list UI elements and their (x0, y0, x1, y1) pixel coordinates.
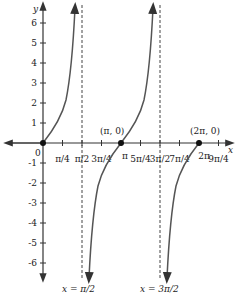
y-tick-6: 6 (31, 18, 37, 28)
y-axis-label: y (32, 4, 39, 14)
x-tick-pi: π (122, 151, 128, 161)
y-tick-neg5: -5 (28, 238, 37, 248)
x-tick-9pi-4: 9π/4 (208, 154, 229, 164)
x-tick-pi-2: π/2 (75, 154, 90, 164)
asymptote-label-2: x = 3π/2 (140, 284, 179, 294)
curve-branch-2 (121, 8, 153, 143)
y-tick-2: 2 (31, 98, 37, 108)
x-tick-5pi-4: 5π/4 (130, 154, 151, 164)
y-tick-4: 4 (31, 58, 37, 68)
point-pi (118, 140, 124, 146)
point-2pi-label: (2π, 0) (190, 126, 220, 136)
y-tick-neg4: -4 (28, 218, 37, 228)
asymptote-label-1: x = π/2 (62, 284, 95, 294)
y-tick-5: 5 (31, 38, 37, 48)
point-origin (40, 140, 46, 146)
point-pi-label: (π, 0) (100, 126, 124, 136)
y-tick-neg1: -1 (28, 158, 37, 168)
x-tick-3pi-2: 3π/2 (150, 154, 170, 164)
x-tick-pi-4: π/4 (55, 154, 70, 164)
curve-branch-1 (43, 8, 75, 143)
y-tick-neg2: -2 (28, 178, 37, 188)
point-2pi (196, 140, 202, 146)
y-tick-neg6: -6 (28, 258, 37, 268)
y-tick-3: 3 (31, 78, 37, 88)
tangent-graph: 6 5 4 3 2 1 -1 -2 -3 -4 -5 -6 0 y x π/4 … (0, 0, 238, 295)
y-tick-neg3: -3 (28, 198, 37, 208)
x-axis-label: x (228, 145, 233, 155)
y-tick-1: 1 (31, 118, 37, 128)
origin-label: 0 (35, 148, 41, 158)
